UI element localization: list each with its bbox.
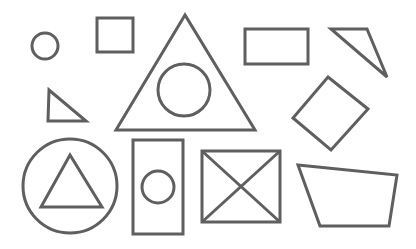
- shapes-drawing: [0, 0, 416, 249]
- shapes-canvas: [0, 0, 416, 249]
- right-triangle-top-right: [331, 29, 387, 77]
- diamond: [293, 77, 368, 150]
- small-triangle-left: [48, 90, 86, 121]
- circle-in-tall-rectangle: [142, 171, 174, 203]
- small-circle: [32, 33, 58, 59]
- large-triangle: [116, 15, 255, 130]
- trapezoid: [298, 165, 397, 226]
- triangle-in-large-circle: [41, 155, 102, 207]
- circle-in-large-triangle: [158, 64, 210, 116]
- small-square: [97, 18, 133, 52]
- wide-rectangle: [245, 29, 308, 64]
